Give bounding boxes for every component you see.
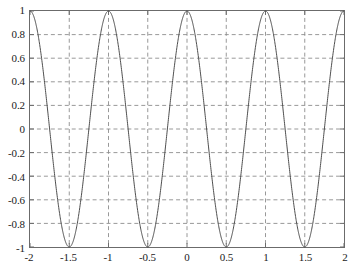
x-tick-label: -2: [25, 252, 34, 263]
y-tick-label: 0.8: [12, 28, 25, 39]
y-tick-label: 0: [20, 124, 25, 135]
y-tick-label: 0.4: [12, 76, 25, 87]
x-tick-label: 1.5: [299, 252, 312, 263]
y-tick-label: -0.6: [8, 195, 25, 206]
series-line-cosine: [30, 11, 344, 247]
y-tick-label: -0.2: [8, 147, 25, 158]
x-axis-tick-labels: -2-1.5-1-0.500.511.52: [29, 252, 345, 268]
x-tick-label: -1: [104, 252, 113, 263]
plot-area: [29, 10, 345, 248]
x-tick-label: -0.5: [139, 252, 156, 263]
x-tick-label: -1.5: [60, 252, 77, 263]
y-tick-label: -0.4: [8, 171, 25, 182]
data-series-cosine: [30, 11, 344, 247]
figure-canvas: -1-0.8-0.6-0.4-0.200.20.40.60.81 -2-1.5-…: [0, 0, 351, 275]
y-tick-label: 1: [20, 5, 25, 16]
x-tick-label: 2: [342, 252, 347, 263]
y-tick-label: 0.2: [12, 100, 25, 111]
y-tick-label: 0.6: [12, 52, 25, 63]
x-tick-label: 0.5: [220, 252, 233, 263]
y-axis-tick-labels: -1-0.8-0.6-0.4-0.200.20.40.60.81: [0, 10, 25, 248]
x-tick-label: 0: [184, 252, 189, 263]
x-tick-label: 1: [263, 252, 268, 263]
y-tick-label: -0.8: [8, 219, 25, 230]
